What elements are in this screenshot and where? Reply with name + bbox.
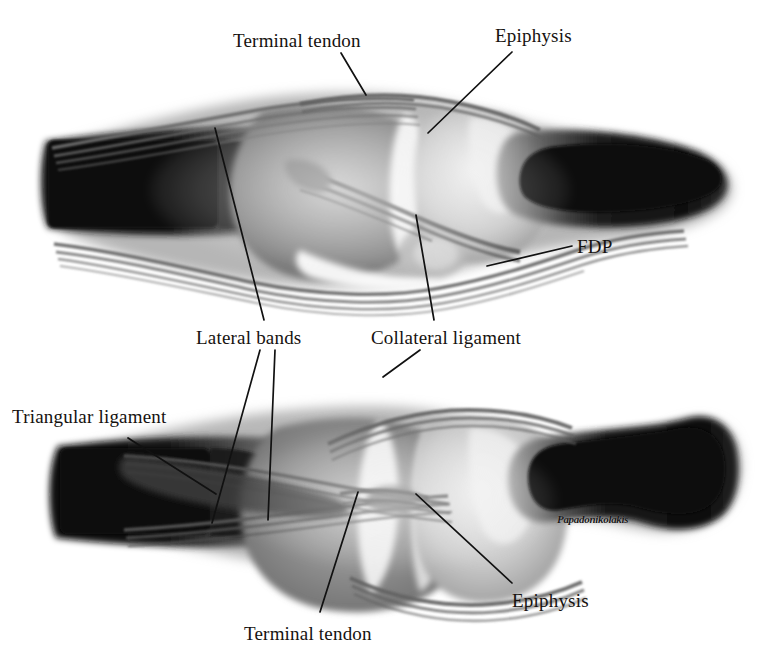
upper-panel-artwork: [41, 93, 732, 315]
label-fdp: FDP: [577, 237, 612, 257]
lower-panel-artwork: [50, 406, 741, 621]
leader-terminal-tendon-top: [341, 53, 366, 95]
label-collateral-ligament: Collateral ligament: [371, 328, 521, 348]
label-triangular-ligament: Triangular ligament: [12, 407, 167, 427]
label-lateral-bands: Lateral bands: [196, 328, 301, 348]
label-terminal-tendon-bottom: Terminal tendon: [244, 624, 372, 644]
label-epiphysis-top: Epiphysis: [495, 26, 572, 46]
artist-signature: Papadonikolakis: [557, 513, 628, 525]
leader-collateral-ligament: [383, 350, 420, 377]
label-terminal-tendon-top: Terminal tendon: [233, 31, 361, 51]
anatomical-figure: Terminal tendonEpiphysisFDPLateral bands…: [0, 0, 773, 659]
label-epiphysis-bottom: Epiphysis: [512, 591, 589, 611]
